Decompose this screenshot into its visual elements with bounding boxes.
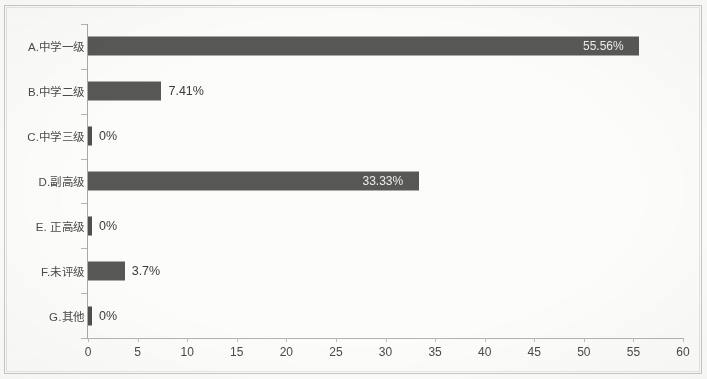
x-axis-tick-label: 35 [428,345,441,359]
bar-value-label: 0% [99,129,117,143]
x-axis-tick-label: 5 [134,345,141,359]
bar-value-label: 0% [99,309,117,323]
y-axis-tick [81,24,87,25]
x-axis-tick-label: 30 [379,345,392,359]
bar [88,127,92,146]
x-axis-tick-label: 20 [280,345,293,359]
x-axis-tick [435,338,436,342]
bar [88,306,92,325]
x-axis-tick [88,338,89,342]
x-axis-tick [336,338,337,342]
category-label: A.中学一级 [6,38,84,54]
x-axis-tick [286,338,287,342]
x-axis-tick [138,338,139,342]
bar [88,216,92,235]
x-axis-tick-label: 45 [528,345,541,359]
x-axis-tick-label: 50 [577,345,590,359]
y-axis-tick [81,69,87,70]
bar [88,37,639,56]
x-axis-tick-label: 0 [85,345,92,359]
category-label: E. 正高级 [6,218,84,234]
bar-row: E. 正高级0% [88,203,683,248]
y-axis-tick [81,114,87,115]
x-axis-tick-labels: 051015202530354045505560 [0,345,707,367]
x-axis-tick-label: 15 [230,345,243,359]
x-axis-tick [187,338,188,342]
bar [88,261,125,280]
x-axis-tick [534,338,535,342]
bar-row: A.中学一级55.56% [88,24,683,69]
bar-row: B.中学二级7.41% [88,69,683,114]
y-axis-tick [81,248,87,249]
category-label: G.其他 [6,308,84,324]
bar-value-label: 33.33% [363,174,404,188]
x-axis-tick-label: 10 [180,345,193,359]
category-label: C.中学三级 [6,128,84,144]
bar-row: F.未评级3.7% [88,248,683,293]
bar [88,82,161,101]
category-label: D.副高级 [6,173,84,189]
x-axis-tick [237,338,238,342]
bar-value-label: 55.56% [583,39,624,53]
x-axis-tick [485,338,486,342]
x-axis-tick [386,338,387,342]
category-label: B.中学二级 [6,83,84,99]
y-axis-tick [81,203,87,204]
x-axis-tick-label: 60 [676,345,689,359]
y-axis-tick [81,338,87,339]
bar-row: G.其他0% [88,293,683,338]
bar-chart-figure: A.中学一级55.56%B.中学二级7.41%C.中学三级0%D.副高级33.3… [0,0,707,379]
bar-row: C.中学三级0% [88,114,683,159]
bar-value-label: 3.7% [132,264,161,278]
bar-row: D.副高级33.33% [88,159,683,204]
y-axis-tick [81,293,87,294]
category-label: F.未评级 [6,263,84,279]
x-axis-tick [584,338,585,342]
bar-value-label: 0% [99,219,117,233]
plot-area: A.中学一级55.56%B.中学二级7.41%C.中学三级0%D.副高级33.3… [88,24,683,338]
x-axis-tick-label: 25 [329,345,342,359]
bar-value-label: 7.41% [168,84,203,98]
y-axis-tick [81,159,87,160]
x-axis-tick-label: 40 [478,345,491,359]
x-axis-tick [683,338,684,342]
x-axis-tick-label: 55 [627,345,640,359]
x-axis-tick [633,338,634,342]
